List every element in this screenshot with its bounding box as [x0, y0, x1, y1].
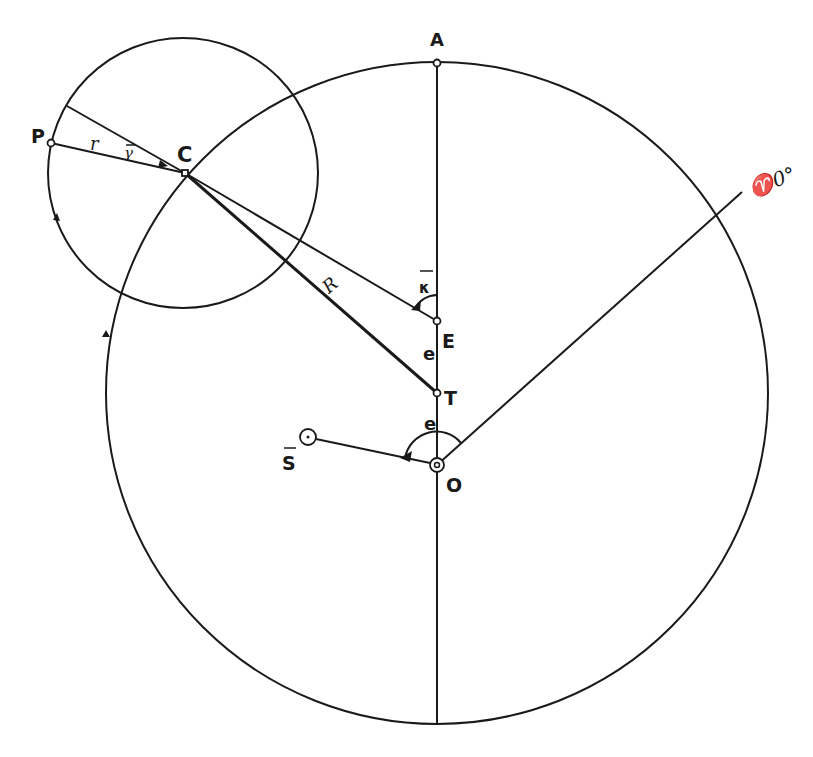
epicycle-reference-line [67, 106, 185, 173]
label-e-upper: e [423, 343, 435, 364]
aries-line [437, 192, 742, 465]
radius-R-line [185, 173, 437, 393]
label-kappa: κ [419, 279, 430, 297]
label-S: S [282, 452, 296, 474]
label-aries-zero: ♈0° [746, 162, 799, 201]
label-e-lower: e [424, 413, 436, 434]
point-E [434, 318, 441, 325]
label-r: r [90, 133, 100, 154]
mean-sun-dot-icon [307, 436, 310, 439]
label-P: P [31, 125, 45, 147]
label-T: T [444, 387, 457, 409]
point-P [48, 140, 55, 147]
line-c-e [185, 173, 437, 321]
epicycle-diagram: A P C r γ R κ E e T e S O ♈0° [0, 0, 813, 757]
longitude-arc [405, 432, 461, 458]
epicycle-radius-r [51, 143, 185, 173]
label-gamma: γ [124, 144, 133, 162]
point-O [430, 458, 444, 472]
label-E: E [442, 330, 455, 352]
point-T [434, 390, 441, 397]
point-A [434, 60, 441, 67]
label-A: A [430, 29, 444, 50]
deferent-direction-arrow-icon [102, 330, 110, 337]
label-O: O [446, 474, 462, 496]
label-R: R [317, 273, 342, 298]
point-C [182, 170, 188, 176]
label-C: C [177, 143, 192, 167]
